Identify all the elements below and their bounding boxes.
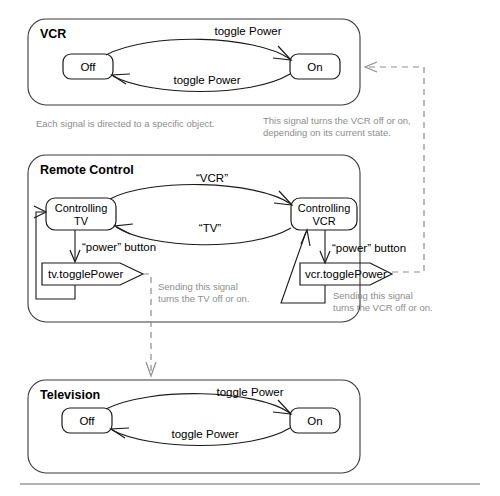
- note-vcr-signal-line1: This signal turns the VCR off or on,: [263, 115, 411, 126]
- remote-transition-vcr-power-button-label: “power” button: [332, 242, 406, 254]
- television-transition-off-to-on[interactable]: toggle Power: [106, 386, 291, 414]
- note-each-signal: Each signal is directed to a specific ob…: [36, 118, 214, 129]
- remote-loop-vcr-return[interactable]: [281, 230, 325, 303]
- diagram-canvas: VCR Off On toggle Power toggle Po: [0, 0, 500, 496]
- dashed-signal-tv-path[interactable]: [143, 274, 156, 376]
- remote-transition-tv-to-vcr[interactable]: “VCR”: [110, 172, 292, 205]
- television-state-on-label: On: [307, 415, 322, 427]
- remote-transition-vcr-to-tv-label: “TV”: [199, 222, 222, 234]
- television-transition-on-to-off-arrowhead: [111, 428, 129, 438]
- remote-transition-tv-power-button[interactable]: “power” button: [70, 230, 156, 262]
- note-sending-tv-line1: Sending this signal: [158, 281, 238, 292]
- remote-transition-tv-to-vcr-arrowhead: [274, 191, 292, 205]
- vcr-transition-on-to-off[interactable]: toggle Power: [112, 74, 290, 92]
- remote-state-controlling-vcr-label-line2: VCR: [312, 215, 335, 227]
- remote-transition-vcr-power-button[interactable]: “power” button: [320, 230, 406, 263]
- television-transition-on-to-off[interactable]: toggle Power: [111, 428, 290, 446]
- remote-transition-tv-to-vcr-label: “VCR”: [196, 172, 228, 184]
- remote-frame-title: Remote Control: [40, 163, 134, 177]
- vcr-frame-group[interactable]: VCR Off On toggle Power toggle Po: [28, 19, 360, 105]
- note-vcr-signal-line2: depending on its current state.: [263, 127, 391, 138]
- uml-signal-diagram: VCR Off On toggle Power toggle Po: [0, 0, 500, 496]
- vcr-state-on[interactable]: On: [290, 54, 340, 79]
- note-sending-vcr-line1: Sending this signal: [333, 290, 413, 301]
- television-state-off[interactable]: Off: [62, 408, 112, 433]
- television-state-on[interactable]: On: [290, 408, 340, 433]
- television-frame-group[interactable]: Television Off On toggle Power to: [28, 380, 360, 473]
- television-state-off-label: Off: [79, 415, 95, 427]
- vcr-transition-off-to-on-label: toggle Power: [214, 25, 281, 37]
- remote-state-controlling-tv[interactable]: Controlling TV: [46, 198, 116, 230]
- vcr-transition-off-to-on[interactable]: toggle Power: [106, 25, 291, 60]
- remote-transition-tv-power-button-label: “power” button: [82, 241, 156, 253]
- vcr-frame-title: VCR: [40, 27, 66, 41]
- television-transition-on-to-off-label: toggle Power: [171, 428, 238, 440]
- signal-tv-toggle-power-label: tv.togglePower: [48, 268, 123, 280]
- remote-transition-vcr-to-tv-arrowhead: [115, 224, 133, 234]
- remote-state-controlling-vcr-label-line1: Controlling: [298, 202, 351, 214]
- vcr-state-off-label: Off: [80, 61, 96, 73]
- note-sending-tv-line2: turns the TV off or on.: [158, 293, 250, 304]
- note-sending-vcr-line2: turns the VCR off or on.: [333, 302, 433, 313]
- vcr-transition-on-to-off-label: toggle Power: [173, 74, 240, 86]
- remote-loop-tv-return-line[interactable]: [36, 212, 75, 299]
- signal-vcr-toggle-power[interactable]: vcr.togglePower: [300, 263, 392, 285]
- vcr-state-off[interactable]: Off: [63, 54, 113, 79]
- remote-state-controlling-vcr[interactable]: Controlling VCR: [291, 198, 357, 230]
- vcr-state-on-label: On: [307, 61, 322, 73]
- dashed-signal-tv-line[interactable]: [143, 274, 151, 373]
- television-transition-off-to-on-label: toggle Power: [216, 386, 283, 398]
- vcr-transition-off-to-on-arrowhead: [273, 46, 291, 60]
- remote-transition-tv-to-vcr-line[interactable]: [110, 185, 291, 204]
- signal-tv-toggle-power[interactable]: tv.togglePower: [42, 263, 143, 285]
- television-transition-off-to-on-arrowhead: [273, 400, 291, 414]
- dashed-signal-vcr-path[interactable]: [365, 62, 424, 272]
- television-frame-title: Television: [40, 388, 100, 402]
- remote-state-controlling-tv-label-line2: TV: [74, 215, 89, 227]
- signal-vcr-toggle-power-label: vcr.togglePower: [305, 268, 387, 280]
- vcr-transition-off-to-on-line[interactable]: [106, 39, 290, 59]
- remote-state-controlling-tv-label-line1: Controlling: [55, 202, 108, 214]
